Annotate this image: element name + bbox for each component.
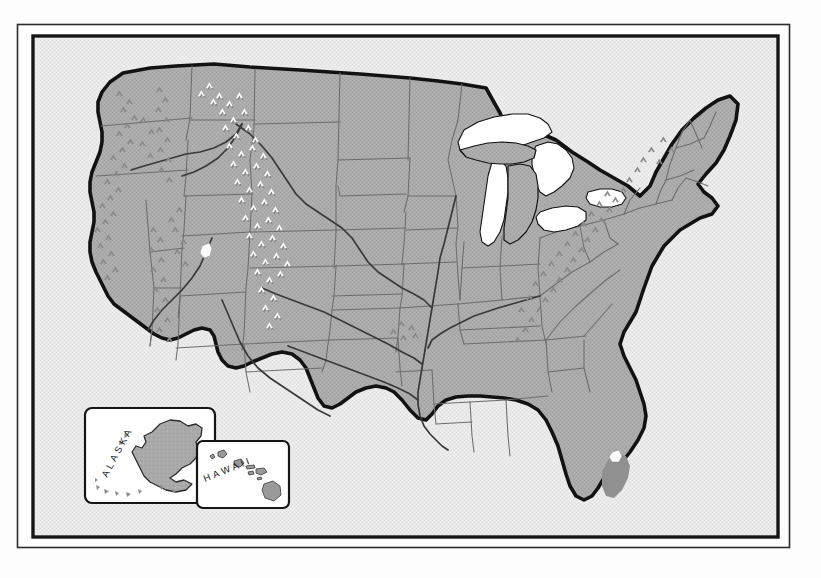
island-lanai <box>248 471 254 475</box>
inset-hawaii: HAWAII <box>197 441 289 508</box>
lake-ontario <box>586 189 626 207</box>
map-figure: ALASKA HAWAII <box>0 0 821 578</box>
island-kahoolawe <box>257 477 262 480</box>
us-map-svg: ALASKA HAWAII <box>0 0 821 578</box>
inset-alaska: ALASKA <box>85 408 215 503</box>
